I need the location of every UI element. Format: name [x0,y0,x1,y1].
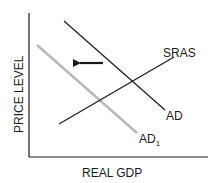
y-axis-label: PRICE LEVEL [12,55,26,133]
ad-as-diagram: SRAS AD AD1 REAL GDP PRICE LEVEL [0,0,220,183]
sras-label: SRAS [163,46,196,60]
ad1-curve [37,45,137,133]
ad1-label: AD1 [139,132,161,148]
ad1-label-main: AD [139,132,156,146]
ad1-label-subscript: 1 [156,139,161,148]
ad-label: AD [166,109,183,123]
axes [29,13,208,157]
ad-curve [64,21,165,110]
x-axis-label: REAL GDP [82,166,142,180]
